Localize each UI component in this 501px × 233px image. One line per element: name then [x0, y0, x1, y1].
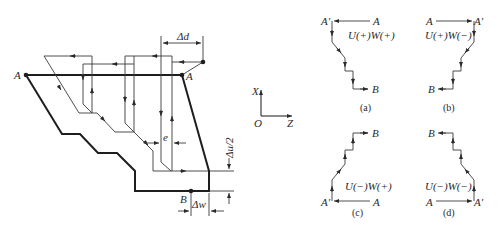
sub-d-sign-label: U(−)W(−) — [425, 180, 472, 193]
label-a-left: A — [13, 69, 21, 81]
subfigure-a: A′ A B U(+)W(+) (a) — [320, 15, 395, 114]
axis-x-label: X — [251, 85, 260, 97]
sub-a-prime-label: A′ — [320, 15, 331, 27]
sub-c-start-label: A — [372, 196, 380, 208]
subfigure-b: A A′ B U(+)W(−) (b) — [425, 15, 484, 114]
sub-a-sign-label: U(+)W(+) — [348, 29, 395, 42]
axis-z-label: Z — [287, 117, 294, 129]
sub-c-prime-label: A′ — [320, 196, 331, 208]
sub-d-start-label: A — [425, 196, 433, 208]
sub-d-end-label: B — [428, 127, 435, 139]
sub-b-end-label: B — [428, 83, 435, 95]
finish-profile — [26, 75, 209, 191]
label-b: B — [180, 193, 187, 205]
sub-c-sign-label: U(−)W(+) — [345, 180, 392, 193]
sub-b-caption: (b) — [443, 102, 455, 114]
point-b — [189, 189, 194, 194]
sub-a-start-label: A — [372, 15, 380, 27]
rough-loop-2 — [125, 56, 134, 132]
axis-origin-label: O — [254, 117, 262, 129]
label-a-right: A — [185, 70, 193, 82]
diagram-canvas: A A B Δd e Δu/2 Δw X Z O — [0, 0, 501, 233]
main-diagram: A A B Δd e Δu/2 Δw — [13, 30, 235, 216]
label-delta-d: Δd — [176, 30, 189, 42]
label-delta-w: Δw — [191, 198, 206, 210]
sub-d-caption: (d) — [443, 207, 455, 219]
sub-b-prime-label: A′ — [473, 15, 484, 27]
sub-c-end-label: B — [372, 127, 379, 139]
subfigure-d: A A′ B U(−)W(−) (d) — [425, 127, 484, 219]
sub-b-start-label: A — [425, 15, 433, 27]
point-a-left — [24, 73, 29, 78]
point-a-right — [180, 73, 185, 78]
sub-a-caption: (a) — [360, 102, 371, 114]
sub-a-end-label: B — [372, 83, 379, 95]
start-point — [201, 60, 206, 65]
coordinate-axes: X Z O — [251, 85, 294, 129]
rough-loop-1b — [83, 64, 92, 113]
label-delta-u-half: Δu/2 — [223, 137, 235, 159]
subfigure-c: A′ A B U(−)W(+) (c) — [320, 127, 392, 219]
sub-d-prime-label: A′ — [473, 196, 484, 208]
label-e: e — [163, 131, 168, 143]
sub-b-sign-label: U(+)W(−) — [425, 29, 472, 42]
sub-c-caption: (c) — [352, 207, 363, 219]
